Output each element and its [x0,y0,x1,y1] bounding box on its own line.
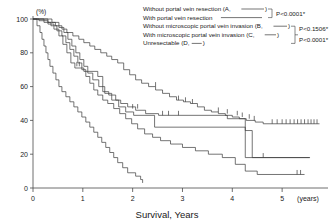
x-tick-label-4: 4 [230,195,234,202]
legend-label-4: Unresectable (D, [143,39,190,46]
y-tick-label-100: 100 [16,16,28,23]
pvalue-label-2: P<0.0001* [299,36,329,43]
series-D [33,19,143,183]
y-tick-label-80: 80 [20,49,28,56]
y-axis-unit-label: (%) [36,8,46,16]
legend-group: Without portal vein resection (A,)With p… [143,5,329,46]
legend-label-tail-3: ) [277,31,279,38]
legend-label-tail-2: ) [288,22,290,29]
pvalue-bracket-1 [291,26,295,43]
x-tick-label-3: 3 [181,195,185,202]
y-tick-label-20: 20 [20,151,28,158]
x-axis-unit-label: (years) [297,195,319,203]
legend-label-tail-4: ) [203,39,205,46]
pvalue-label-1: P<0.1506* [299,25,329,32]
legend-label-2: Without microscopic portal vein invasion… [143,22,263,29]
legend-label-3: With microscopic portal vein invasion (C… [143,31,255,38]
survival-chart-figure: 020406080100(%)012345(years) Without por… [0,0,335,223]
pvalue-bracket-0 [268,9,272,18]
legend-label-tail-0: ) [265,5,267,12]
y-tick-label-0: 0 [24,185,28,192]
legend-label-1: With portal vein resection [143,14,213,21]
y-tick-label-40: 40 [20,117,28,124]
x-axis-title: Survival, Years [136,209,199,220]
kaplan-meier-chart: 020406080100(%)012345(years) Without por… [0,0,335,223]
x-tick-label-1: 1 [81,195,85,202]
x-tick-label-2: 2 [131,195,135,202]
curve-path-D [33,19,143,183]
pvalue-label-0: P<0.0001* [276,10,306,17]
legend-label-0: Without portal vein resection (A, [143,5,231,12]
x-tick-label-0: 0 [31,195,35,202]
y-tick-label-60: 60 [20,83,28,90]
x-tick-label-5: 5 [280,195,284,202]
